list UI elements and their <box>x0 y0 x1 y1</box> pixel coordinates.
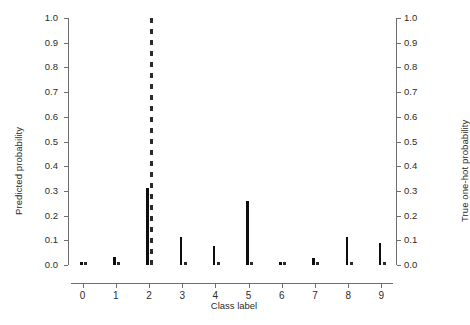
true-onehot-marker <box>383 262 386 265</box>
x-tick <box>116 284 117 288</box>
predicted-probability-bar <box>80 262 83 265</box>
x-tick <box>215 284 216 288</box>
y-tick-label-right: 0.4 <box>404 160 434 171</box>
y-tick-left <box>64 191 68 192</box>
y-tick-left <box>64 216 68 217</box>
y-tick-right <box>397 43 401 44</box>
y-tick-left <box>64 67 68 68</box>
y-tick-label-right: 0.1 <box>404 234 434 245</box>
y-tick-label-right: 0.6 <box>404 111 434 122</box>
predicted-probability-bar <box>279 262 282 265</box>
x-tick-label: 6 <box>272 290 292 301</box>
y-tick-left <box>64 240 68 241</box>
y-tick-label-left: 0.5 <box>28 136 58 147</box>
true-onehot-marker <box>350 262 353 265</box>
y-axis-right-title: True one-hot probability <box>459 120 470 222</box>
predicted-probability-bar <box>180 237 183 265</box>
y-tick-label-left: 0.4 <box>28 160 58 171</box>
x-tick <box>182 284 183 288</box>
x-tick <box>381 284 382 288</box>
true-onehot-marker <box>184 262 187 265</box>
predicted-probability-bar <box>379 243 382 265</box>
y-tick-left <box>64 92 68 93</box>
x-axis-title: Class label <box>0 300 468 311</box>
y-tick-label-left: 0.8 <box>28 61 58 72</box>
x-tick-label: 2 <box>139 290 159 301</box>
y-tick-label-left: 0.2 <box>28 210 58 221</box>
y-tick-right <box>397 216 401 217</box>
true-onehot-marker <box>250 262 253 265</box>
y-tick-label-right: 0.5 <box>404 136 434 147</box>
y-tick-right <box>397 67 401 68</box>
axis-spine-left <box>68 18 69 265</box>
predicted-probability-bar <box>246 201 249 265</box>
y-tick-left <box>64 166 68 167</box>
y-tick-right <box>397 240 401 241</box>
x-tick-label: 1 <box>106 290 126 301</box>
y-tick-label-left: 0.1 <box>28 234 58 245</box>
y-tick-label-right: 1.0 <box>404 12 434 23</box>
axis-spine-bottom <box>71 283 393 284</box>
y-tick-label-left: 0.9 <box>28 37 58 48</box>
y-tick-right <box>397 142 401 143</box>
y-tick-left <box>64 117 68 118</box>
x-tick <box>249 284 250 288</box>
y-tick-label-left: 0.0 <box>28 259 58 270</box>
x-tick <box>83 284 84 288</box>
x-tick <box>315 284 316 288</box>
y-tick-right <box>397 18 401 19</box>
true-onehot-marker <box>316 262 319 265</box>
y-tick-label-right: 0.3 <box>404 185 434 196</box>
y-tick-left <box>64 18 68 19</box>
x-tick-label: 9 <box>371 290 391 301</box>
predicted-probability-bar <box>312 258 315 265</box>
true-onehot-marker <box>217 262 220 265</box>
y-axis-left-title: Predicted probability <box>13 127 24 215</box>
y-tick-label-left: 1.0 <box>28 12 58 23</box>
y-tick-label-right: 0.8 <box>404 61 434 72</box>
y-tick-label-left: 0.7 <box>28 86 58 97</box>
x-tick-label: 3 <box>172 290 192 301</box>
y-tick-left <box>64 265 68 266</box>
true-onehot-bar <box>150 18 153 265</box>
x-tick <box>348 284 349 288</box>
predicted-probability-bar <box>346 237 349 265</box>
y-tick-label-right: 0.9 <box>404 37 434 48</box>
x-tick-label: 0 <box>73 290 93 301</box>
plot-area <box>71 18 393 265</box>
true-onehot-marker <box>117 262 120 265</box>
y-tick-right <box>397 117 401 118</box>
x-tick-label: 7 <box>305 290 325 301</box>
y-tick-right <box>397 92 401 93</box>
y-tick-right <box>397 191 401 192</box>
y-tick-left <box>64 43 68 44</box>
x-tick-label: 8 <box>338 290 358 301</box>
y-tick-label-left: 0.3 <box>28 185 58 196</box>
y-tick-right <box>397 265 401 266</box>
y-tick-left <box>64 142 68 143</box>
predicted-probability-bar <box>146 188 149 265</box>
y-tick-right <box>397 166 401 167</box>
y-tick-label-right: 0.2 <box>404 210 434 221</box>
y-tick-label-left: 0.6 <box>28 111 58 122</box>
x-tick-label: 4 <box>205 290 225 301</box>
y-tick-label-right: 0.0 <box>404 259 434 270</box>
x-tick-label: 5 <box>239 290 259 301</box>
x-tick <box>282 284 283 288</box>
y-tick-label-right: 0.7 <box>404 86 434 97</box>
true-onehot-marker <box>283 262 286 265</box>
predicted-probability-bar <box>213 246 216 265</box>
true-onehot-marker <box>84 262 87 265</box>
x-tick <box>149 284 150 288</box>
predicted-probability-bar <box>113 257 116 265</box>
